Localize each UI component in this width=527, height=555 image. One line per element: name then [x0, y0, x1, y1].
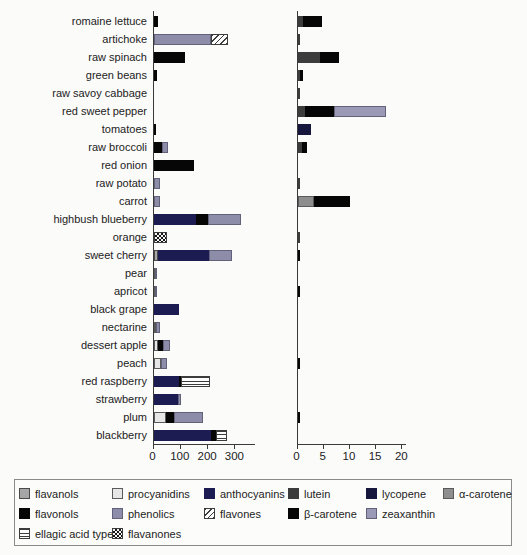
- bar-segment-anthocyanins: [154, 214, 197, 225]
- bar-segment-anthocyanins: [154, 394, 179, 405]
- bar-segment-anthocyanins: [154, 304, 180, 315]
- bar-segment-anthocyanins: [154, 430, 211, 441]
- bar-segment-beta_carotene: [298, 286, 300, 297]
- legend-swatch-anthocyanins: [204, 488, 215, 499]
- x-axis-tick: [323, 445, 324, 449]
- legend-item-flavanones: flavanones: [112, 527, 181, 540]
- bar-segment-flavonols: [166, 412, 174, 423]
- legend-item-alpha_carotene: α-carotene: [443, 487, 512, 500]
- bar-segment-beta_carotene: [305, 106, 334, 117]
- bar-segment-ellagic_acid_type: [216, 430, 227, 441]
- category-label: artichoke: [0, 32, 147, 46]
- bar-segment-flavanones: [154, 232, 168, 243]
- legend-label: α-carotene: [459, 488, 512, 500]
- bar-segment-phenolics: [154, 196, 160, 207]
- x-axis-tick: [207, 445, 208, 449]
- bar-segment-lycopene: [298, 124, 311, 135]
- category-label: red onion: [0, 158, 147, 172]
- bar-segment-flavonols: [154, 52, 186, 63]
- category-label: carrot: [0, 194, 147, 208]
- x-axis-tick: [349, 445, 350, 449]
- category-label: tomatoes: [0, 122, 147, 136]
- bar-segment-phenolics: [208, 214, 241, 225]
- legend-swatch-flavanols: [19, 488, 30, 499]
- bar-segment-zeaxanthin: [334, 106, 386, 117]
- category-label: pear: [0, 266, 147, 280]
- category-label: raw broccoli: [0, 140, 147, 154]
- bar-segment-flavonols: [154, 16, 158, 27]
- bar-segment-phenolics: [209, 250, 232, 261]
- legend-item-flavanols: flavanols: [19, 487, 78, 500]
- category-label: orange: [0, 230, 147, 244]
- legend-label: ellagic acid type: [35, 528, 113, 540]
- bar-segment-phenolics: [155, 286, 157, 297]
- legend-swatch-lutein: [288, 488, 299, 499]
- legend-label: anthocyanins: [220, 488, 285, 500]
- legend-swatch-phenolics: [112, 508, 123, 519]
- bar-segment-lutein: [298, 178, 300, 189]
- x-axis-line: [153, 444, 256, 445]
- legend-swatch-flavones: [204, 508, 215, 519]
- bar-segment-ellagic_acid_type: [181, 376, 210, 387]
- category-label: dessert apple: [0, 338, 147, 352]
- legend-item-anthocyanins: anthocyanins: [204, 487, 285, 500]
- bar-segment-lutein: [298, 106, 305, 117]
- bar-segment-flavonols: [154, 70, 157, 81]
- legend-label: flavonols: [35, 508, 78, 520]
- legend-item-flavones: flavones: [204, 507, 261, 520]
- bar-segment-anthocyanins: [154, 376, 179, 387]
- bar-segment-phenolics: [162, 142, 168, 153]
- bar-segment-phenolics: [155, 268, 157, 279]
- bar-segment-lutein: [298, 34, 300, 45]
- category-label: red sweet pepper: [0, 104, 147, 118]
- x-axis-tick: [297, 445, 298, 449]
- legend-box: flavanolsprocyanidinsanthocyaninsluteinl…: [14, 479, 512, 546]
- bar-segment-lutein: [298, 52, 321, 63]
- legend-swatch-procyanidins: [112, 488, 123, 499]
- category-label: raw spinach: [0, 50, 147, 64]
- bar-segment-beta_carotene: [302, 142, 307, 153]
- legend-swatch-beta_carotene: [288, 508, 299, 519]
- bar-segment-phenolics: [154, 34, 212, 45]
- legend-item-phenolics: phenolics: [112, 507, 174, 520]
- category-label: black grape: [0, 302, 147, 316]
- bar-segment-anthocyanins: [158, 250, 209, 261]
- bar-segment-phenolics: [178, 394, 181, 405]
- legend-item-flavonols: flavonols: [19, 507, 78, 520]
- x-axis-tick: [401, 445, 402, 449]
- x-axis-tick-label: 300: [217, 450, 251, 462]
- legend-label: β-carotene: [304, 508, 357, 520]
- legend-swatch-lycopene: [366, 488, 377, 499]
- category-label: raw potato: [0, 176, 147, 190]
- category-label: blackberry: [0, 428, 147, 442]
- bar-segment-beta_carotene: [300, 70, 303, 81]
- category-label: plum: [0, 410, 147, 424]
- legend-label: flavanones: [128, 528, 181, 540]
- x-axis-tick: [180, 445, 181, 449]
- bar-segment-flavonols: [154, 160, 194, 171]
- x-axis-tick: [234, 445, 235, 449]
- bar-segment-phenolics: [156, 322, 160, 333]
- bar-segment-lutein: [298, 88, 300, 99]
- legend-label: flavanols: [35, 488, 78, 500]
- bar-segment-procyanidins: [154, 358, 161, 369]
- legend-item-lycopene: lycopene: [366, 487, 426, 500]
- bar-segment-beta_carotene: [303, 16, 322, 27]
- category-label: sweet cherry: [0, 248, 147, 262]
- legend-label: procyanidins: [128, 488, 190, 500]
- bar-segment-phenolics: [154, 178, 161, 189]
- bar-segment-flavonols: [196, 214, 208, 225]
- legend-swatch-flavonols: [19, 508, 30, 519]
- legend-swatch-ellagic_acid_type: [19, 528, 30, 539]
- legend-label: zeaxanthin: [382, 508, 435, 520]
- category-label: apricot: [0, 284, 147, 298]
- legend-label: phenolics: [128, 508, 174, 520]
- category-label: red raspberry: [0, 374, 147, 388]
- category-label: strawberry: [0, 392, 147, 406]
- legend-item-procyanidins: procyanidins: [112, 487, 190, 500]
- x-axis-tick-label: 20: [384, 450, 418, 462]
- bar-segment-procyanidins: [154, 412, 166, 423]
- bar-segment-flavonols: [154, 142, 162, 153]
- legend-label: lutein: [304, 488, 330, 500]
- bar-segment-alpha_carotene: [298, 196, 315, 207]
